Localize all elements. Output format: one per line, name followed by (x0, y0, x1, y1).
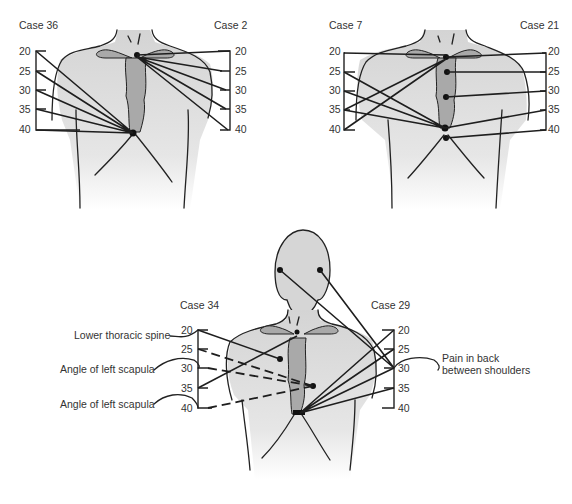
svg-text:25: 25 (19, 65, 31, 77)
svg-text:20: 20 (181, 324, 193, 336)
referred-pain-diagram: Case 36 Case 2 20 25 30 35 40 20 25 30 3… (0, 0, 572, 504)
svg-text:20: 20 (548, 45, 560, 57)
annotation-pain-back: between shoulders (442, 364, 530, 376)
scale-right: 20 25 30 35 40 (235, 45, 247, 135)
svg-text:40: 40 (181, 402, 193, 414)
scale-bracket-right (218, 51, 230, 130)
svg-text:35: 35 (181, 382, 193, 394)
case-label-left: Case 36 (19, 19, 58, 31)
case-label-right: Case 29 (371, 299, 410, 311)
svg-text:20: 20 (19, 45, 31, 57)
sternum (288, 338, 306, 414)
svg-text:35: 35 (235, 103, 247, 115)
annotation-pain-back: Pain in back (442, 352, 500, 364)
head (275, 230, 330, 318)
annotation-angle-left-scapula: Angle of left scapula (60, 398, 155, 410)
svg-text:40: 40 (235, 123, 247, 135)
svg-text:40: 40 (398, 402, 410, 414)
case-label-right: Case 2 (214, 19, 247, 31)
annotation-angle-left-scapula: Angle of left scapula (60, 363, 155, 375)
svg-text:35: 35 (548, 103, 560, 115)
svg-text:30: 30 (548, 84, 560, 96)
svg-text:30: 30 (398, 362, 410, 374)
svg-text:25: 25 (398, 343, 410, 355)
svg-text:35: 35 (329, 103, 341, 115)
scale-left: 20 25 30 35 40 (181, 324, 193, 414)
svg-text:40: 40 (329, 123, 341, 135)
svg-text:20: 20 (235, 45, 247, 57)
case-label-left: Case 7 (329, 19, 362, 31)
svg-text:20: 20 (329, 45, 341, 57)
svg-text:40: 40 (19, 123, 31, 135)
sternum (436, 58, 456, 128)
svg-text:30: 30 (19, 84, 31, 96)
svg-text:30: 30 (329, 84, 341, 96)
svg-text:25: 25 (235, 65, 247, 77)
scale-right: 20 25 30 35 40 (548, 45, 560, 135)
scale-right: 20 25 30 35 40 (398, 324, 410, 414)
svg-text:20: 20 (398, 324, 410, 336)
scale-left: 20 25 30 35 40 (19, 45, 31, 135)
annotation-lower-thoracic-spine: Lower thoracic spine (74, 329, 170, 341)
svg-text:25: 25 (329, 65, 341, 77)
panel-bottom: Case 34 Case 29 Lower thoracic spine Ang… (60, 230, 530, 480)
pain-point (295, 330, 300, 335)
svg-text:35: 35 (19, 103, 31, 115)
svg-text:35: 35 (398, 382, 410, 394)
case-label-right: Case 21 (520, 19, 559, 31)
svg-text:25: 25 (181, 343, 193, 355)
svg-text:25: 25 (548, 65, 560, 77)
case-label-left: Case 34 (180, 299, 219, 311)
scale-left: 20 25 30 35 40 (329, 45, 341, 135)
svg-text:40: 40 (548, 123, 560, 135)
panel-top-right: Case 7 Case 21 20 25 30 35 40 20 25 30 3… (329, 19, 560, 210)
svg-text:30: 30 (235, 84, 247, 96)
svg-text:30: 30 (181, 362, 193, 374)
panel-top-left: Case 36 Case 2 20 25 30 35 40 20 25 30 3… (19, 19, 247, 210)
